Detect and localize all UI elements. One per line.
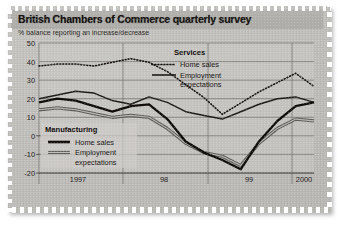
torn-edge-top — [8, 5, 331, 11]
x-tick-98: 98 — [160, 175, 168, 184]
y-tick-neg20: -20 — [24, 169, 35, 178]
y-axis-tick-labels: 50 40 30 20 10 0 -10 -20 — [24, 39, 35, 178]
legend-services-home-sales-label: Home sales — [180, 60, 219, 69]
legend-manufacturing-employment-label: Employment — [75, 148, 116, 157]
y-tick-50: 50 — [27, 39, 35, 48]
y-tick-neg10: -10 — [24, 150, 35, 159]
torn-edge-bottom — [8, 207, 331, 213]
legend-manufacturing: Manufacturing Home sales Employment expe… — [41, 123, 137, 168]
chart-plot-area: 50 40 30 20 10 0 -10 -20 1997 98 99 2000 — [18, 39, 321, 204]
x-tick-99: 99 — [245, 175, 253, 184]
chart-subtitle: % balance reporting an increase/decrease — [18, 29, 149, 36]
line-chart-svg: 50 40 30 20 10 0 -10 -20 1997 98 99 2000 — [18, 39, 321, 204]
newspaper-clipping: British Chambers of Commerce quarterly s… — [8, 6, 331, 212]
legend-manufacturing-home-sales-label: Home sales — [75, 138, 114, 147]
legend-manufacturing-employment-label2: expectations — [75, 158, 117, 167]
y-tick-20: 20 — [27, 95, 35, 104]
y-tick-10: 10 — [27, 113, 35, 122]
legend-services-employment-label: Employment — [180, 71, 221, 80]
y-tick-0: 0 — [31, 132, 35, 141]
legend-services-employment-label2: expectations — [180, 80, 222, 89]
page-title: British Chambers of Commerce quarterly s… — [18, 13, 251, 25]
y-tick-40: 40 — [27, 58, 35, 67]
legend-services-title: Services — [174, 48, 205, 57]
y-tick-30: 30 — [27, 76, 35, 85]
torn-edge-right — [327, 6, 332, 212]
legend-manufacturing-title: Manufacturing — [45, 125, 98, 134]
torn-edge-left — [7, 6, 12, 212]
x-tick-2000: 2000 — [296, 175, 312, 184]
x-axis-tick-labels: 1997 98 99 2000 — [70, 175, 312, 184]
x-tick-1997: 1997 — [70, 175, 86, 184]
